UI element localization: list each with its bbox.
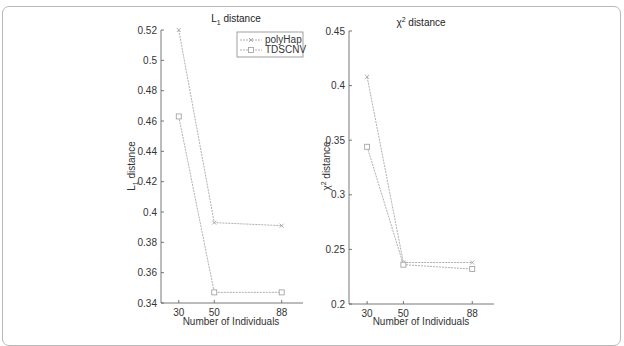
chi2-x-axis-label: Number of Individuals (373, 316, 470, 327)
series-line-polyhap (367, 77, 472, 263)
y-tick-label: 0.4 (331, 80, 345, 91)
square-marker-icon (401, 262, 406, 267)
square-marker-icon (212, 290, 217, 295)
x-tick-label: 30 (362, 308, 374, 319)
square-marker-icon (470, 267, 475, 272)
y-tick-label: 0.44 (138, 146, 158, 157)
y-tick-label: 0.25 (326, 244, 346, 255)
chi2-axes: 0.20.250.30.350.40.45305088 (326, 26, 494, 320)
series-line-tdscnv (179, 116, 282, 292)
square-marker-icon (279, 290, 284, 295)
x-marker-icon (212, 221, 216, 225)
y-tick-label: 0.46 (138, 116, 158, 127)
y-tick-label: 0.45 (326, 26, 346, 37)
y-tick-label: 0.52 (138, 25, 158, 36)
l1-distance-chart: L1 distance 0.340.360.380.40.420.440.460… (126, 13, 306, 327)
l1-axes: 0.340.360.380.40.420.440.460.480.50.5230… (138, 25, 303, 319)
square-marker-icon (176, 114, 181, 119)
y-tick-label: 0.3 (331, 189, 345, 200)
y-tick-label: 0.2 (331, 299, 345, 310)
legend: polyHap TDSCNV (237, 32, 306, 57)
l1-series (176, 28, 284, 295)
chi2-distance-chart: χ2 distance 0.20.250.30.350.40.45305088 … (320, 16, 494, 327)
y-tick-label: 0.36 (138, 267, 158, 278)
y-tick-label: 0.5 (143, 55, 157, 66)
chi2-series (365, 75, 475, 272)
y-tick-label: 0.38 (138, 237, 158, 248)
y-tick-label: 0.34 (138, 298, 158, 309)
series-line-polyhap (179, 30, 282, 226)
square-marker-icon (249, 48, 254, 53)
y-tick-label: 0.48 (138, 85, 158, 96)
l1-x-axis-label: Number of Individuals (183, 316, 280, 327)
chi2-chart-title: χ2 distance (396, 16, 446, 28)
series-line-tdscnv (367, 147, 472, 269)
y-tick-label: 0.4 (143, 207, 157, 218)
chi2-y-axis-label: χ2 distance (320, 141, 332, 191)
square-marker-icon (365, 144, 370, 149)
legend-label-tdscnv: TDSCNV (265, 44, 306, 55)
y-tick-label: 0.42 (138, 176, 158, 187)
l1-chart-title: L1 distance (211, 13, 261, 26)
